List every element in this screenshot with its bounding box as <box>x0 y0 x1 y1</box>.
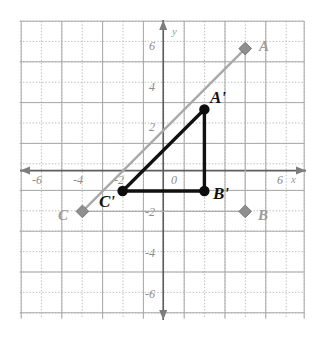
point-a-label: A <box>258 38 269 54</box>
y-tick-pos6: 6 <box>149 39 155 53</box>
x-tick-neg6: -6 <box>32 173 42 187</box>
point-b-label: B <box>257 207 268 223</box>
coordinate-plane-figure: -6 -4 -2 0 6 x 6 4 2 -2 -4 -6 y A <box>0 0 327 347</box>
point-c-prime-marker <box>117 186 127 196</box>
x-tick-origin: 0 <box>171 173 177 187</box>
dilation-diagram-svg: -6 -4 -2 0 6 x 6 4 2 -2 -4 -6 y A <box>0 0 327 347</box>
x-axis-label: x <box>290 173 296 185</box>
y-tick-neg2: -2 <box>145 205 155 219</box>
y-tick-pos2: 2 <box>149 120 155 134</box>
y-tick-neg6: -6 <box>145 287 155 301</box>
y-tick-neg4: -4 <box>145 246 155 260</box>
point-c-prime-label: C' <box>99 192 115 211</box>
point-c-label: C <box>58 207 69 223</box>
point-b-prime-label: B' <box>212 184 229 203</box>
point-a-prime-marker <box>199 104 209 114</box>
y-tick-pos4: 4 <box>149 80 155 94</box>
x-tick-pos6: 6 <box>277 173 283 187</box>
y-axis-label: y <box>171 25 177 37</box>
point-b-prime-marker <box>199 186 209 196</box>
point-a-prime-label: A' <box>209 88 226 107</box>
x-tick-neg4: -4 <box>73 173 83 187</box>
